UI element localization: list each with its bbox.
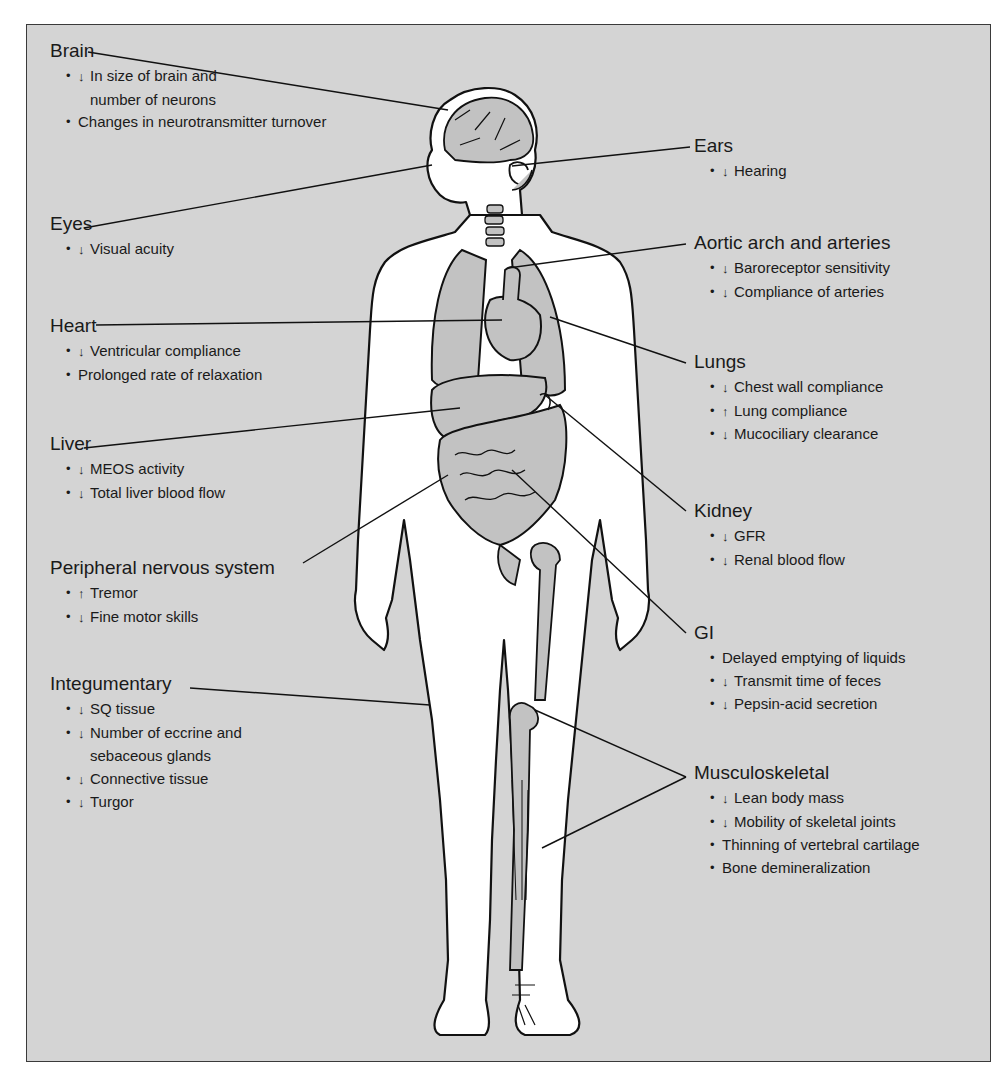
list-item: ↓Turgor	[66, 791, 242, 815]
leader-ears	[512, 147, 690, 166]
arrow-down-icon: ↓	[722, 526, 734, 549]
list-item: Changes in neurotransmitter turnover	[66, 111, 326, 134]
label-group-peripheral-nervous-system: Peripheral nervous system ↑Tremor ↓Fine …	[50, 557, 275, 629]
label-group-brain: Brain ↓In size of brain andnumber of neu…	[50, 40, 326, 134]
arrow-down-icon: ↓	[78, 699, 90, 722]
label-group-liver: Liver ↓MEOS activity ↓Total liver blood …	[50, 433, 225, 505]
arrow-down-icon: ↓	[722, 812, 734, 835]
list-item: ↓Visual acuity	[66, 238, 174, 262]
list-item: ↓Fine motor skills	[66, 606, 275, 630]
arrow-down-icon: ↓	[722, 694, 734, 717]
heading-gi: GI	[694, 622, 905, 644]
arrow-down-icon: ↓	[722, 282, 734, 305]
list-item: ↓Mucociliary clearance	[710, 423, 883, 447]
list-item: ↓Number of eccrine andsebaceous glands	[66, 722, 242, 768]
list-item: Thinning of vertebral cartilage	[710, 834, 920, 857]
list-item: ↓Hearing	[710, 160, 787, 184]
arrow-down-icon: ↓	[78, 792, 90, 815]
heading-kidney: Kidney	[694, 500, 845, 522]
list-item: ↑Lung compliance	[710, 400, 883, 424]
arrow-down-icon: ↓	[78, 483, 90, 506]
list-item: ↓Transmit time of feces	[710, 670, 905, 694]
label-group-lungs: Lungs ↓Chest wall compliance ↑Lung compl…	[694, 351, 883, 447]
arrow-down-icon: ↓	[722, 424, 734, 447]
arrow-down-icon: ↓	[722, 788, 734, 811]
list-item: ↓Pepsin-acid secretion	[710, 693, 905, 717]
arrow-down-icon: ↓	[722, 258, 734, 281]
label-group-ears: Ears ↓Hearing	[694, 135, 787, 184]
list-item: ↓MEOS activity	[66, 458, 225, 482]
arrow-down-icon: ↓	[78, 769, 90, 792]
label-group-kidney: Kidney ↓GFR ↓Renal blood flow	[694, 500, 845, 572]
heading-brain: Brain	[50, 40, 326, 62]
label-group-eyes: Eyes ↓Visual acuity	[50, 213, 174, 262]
heading-pns: Peripheral nervous system	[50, 557, 275, 579]
heading-liver: Liver	[50, 433, 225, 455]
list-item: ↓Ventricular compliance	[66, 340, 262, 364]
heading-ears: Ears	[694, 135, 787, 157]
label-group-musculoskeletal: Musculoskeletal ↓Lean body mass ↓Mobilit…	[694, 762, 920, 879]
list-item: ↓Compliance of arteries	[710, 281, 890, 305]
arrow-down-icon: ↓	[78, 341, 90, 364]
arrow-up-icon: ↑	[722, 401, 734, 424]
arrow-down-icon: ↓	[722, 161, 734, 184]
arrow-down-icon: ↓	[78, 66, 90, 89]
list-item: Bone demineralization	[710, 857, 920, 880]
label-group-heart: Heart ↓Ventricular compliance Prolonged …	[50, 315, 262, 386]
list-item: ↓Connective tissue	[66, 768, 242, 792]
heading-heart: Heart	[50, 315, 262, 337]
human-body-figure	[0, 0, 1008, 1077]
list-item: ↑Tremor	[66, 582, 275, 606]
list-item: Delayed emptying of liquids	[710, 647, 905, 670]
list-item: ↓Mobility of skeletal joints	[710, 811, 920, 835]
arrow-down-icon: ↓	[78, 459, 90, 482]
arrow-down-icon: ↓	[722, 377, 734, 400]
list-item: ↓Renal blood flow	[710, 549, 845, 573]
arrow-down-icon: ↓	[722, 671, 734, 694]
label-group-gi: GI Delayed emptying of liquids ↓Transmit…	[694, 622, 905, 717]
arrow-up-icon: ↑	[78, 583, 90, 606]
list-item: ↓Baroreceptor sensitivity	[710, 257, 890, 281]
list-item: ↓In size of brain andnumber of neurons	[66, 65, 326, 111]
list-item: ↓Lean body mass	[710, 787, 920, 811]
heading-musculoskeletal: Musculoskeletal	[694, 762, 920, 784]
list-item: ↓Total liver blood flow	[66, 482, 225, 506]
list-item: ↓SQ tissue	[66, 698, 242, 722]
heading-eyes: Eyes	[50, 213, 174, 235]
label-group-aortic-arch: Aortic arch and arteries ↓Baroreceptor s…	[694, 232, 890, 304]
heading-aortic: Aortic arch and arteries	[694, 232, 890, 254]
heading-lungs: Lungs	[694, 351, 883, 373]
label-group-integumentary: Integumentary ↓SQ tissue ↓Number of eccr…	[50, 673, 242, 815]
arrow-down-icon: ↓	[78, 607, 90, 630]
list-item: ↓GFR	[710, 525, 845, 549]
arrow-down-icon: ↓	[722, 550, 734, 573]
arrow-down-icon: ↓	[78, 239, 90, 262]
heading-integumentary: Integumentary	[50, 673, 242, 695]
arrow-down-icon: ↓	[78, 723, 90, 746]
list-item: Prolonged rate of relaxation	[66, 364, 262, 387]
list-item: ↓Chest wall compliance	[710, 376, 883, 400]
